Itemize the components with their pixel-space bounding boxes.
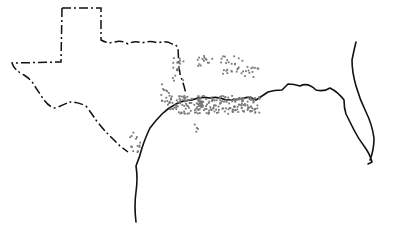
occurrence-dot xyxy=(184,101,186,103)
occurrence-dot xyxy=(248,70,250,72)
occurrence-dot xyxy=(237,68,239,70)
occurrence-dot xyxy=(206,59,208,61)
occurrence-dot xyxy=(235,109,237,111)
occurrence-dot xyxy=(211,58,213,60)
occurrence-dot xyxy=(243,98,245,100)
occurrence-dot xyxy=(179,101,181,103)
occurrence-dot xyxy=(214,111,216,113)
occurrence-dot xyxy=(196,127,198,129)
occurrence-dot xyxy=(198,109,200,111)
occurrence-dot xyxy=(208,112,210,114)
occurrence-dot xyxy=(172,108,174,110)
occurrence-dot xyxy=(198,57,200,59)
occurrence-dot xyxy=(256,108,258,110)
occurrence-dot xyxy=(219,100,221,102)
occurrence-dot xyxy=(254,97,256,99)
occurrence-dot xyxy=(181,96,183,98)
occurrence-dot xyxy=(203,55,205,57)
occurrence-dot xyxy=(228,61,230,63)
occurrence-dot xyxy=(131,135,133,137)
occurrence-dot xyxy=(248,96,250,98)
occurrence-dot xyxy=(252,71,254,73)
occurrence-dot xyxy=(180,113,182,115)
occurrence-dot xyxy=(239,98,241,100)
occurrence-dot xyxy=(223,69,225,71)
occurrence-dot xyxy=(137,145,139,147)
occurrence-dot xyxy=(184,113,186,115)
occurrence-dot xyxy=(135,138,137,140)
occurrence-dot xyxy=(214,100,216,102)
occurrence-dot xyxy=(206,112,208,114)
occurrence-dot xyxy=(132,150,134,152)
texas-border xyxy=(12,8,186,152)
occurrence-dot xyxy=(182,99,184,101)
occurrence-dot xyxy=(247,66,249,68)
occurrence-dot xyxy=(208,101,210,103)
occurrence-dot xyxy=(221,95,223,97)
occurrence-dot xyxy=(188,107,190,109)
occurrence-dot xyxy=(254,109,256,111)
occurrence-dot xyxy=(172,102,174,104)
occurrence-dot xyxy=(231,95,233,97)
occurrence-dot xyxy=(179,63,181,65)
occurrence-dot xyxy=(161,83,163,85)
occurrence-dot xyxy=(224,56,226,58)
occurrence-dot xyxy=(168,92,170,94)
occurrence-dot xyxy=(258,112,260,114)
occurrence-dot xyxy=(198,105,200,107)
occurrence-dot xyxy=(231,101,233,103)
occurrence-dot xyxy=(203,60,205,62)
occurrence-dot xyxy=(206,108,208,110)
occurrence-dot xyxy=(160,94,162,96)
occurrence-dot xyxy=(221,58,223,60)
occurrence-dot xyxy=(208,110,210,112)
occurrence-dot xyxy=(166,90,168,92)
occurrence-dot xyxy=(211,97,213,99)
occurrence-dot xyxy=(197,59,199,61)
occurrence-dot xyxy=(253,76,255,78)
occurrence-dot xyxy=(225,97,227,99)
occurrence-dot xyxy=(241,72,243,74)
occurrence-dot xyxy=(218,109,220,111)
occurrence-dot xyxy=(178,68,180,70)
gulf-coastline xyxy=(135,42,374,222)
occurrence-dot xyxy=(234,63,236,65)
occurrence-dot xyxy=(242,71,244,73)
occurrence-dot xyxy=(213,105,215,107)
occurrence-dot xyxy=(242,60,244,62)
occurrence-dot xyxy=(175,108,177,110)
occurrence-dot xyxy=(251,67,253,69)
occurrence-dot xyxy=(219,97,221,99)
occurrence-dot xyxy=(161,100,163,102)
occurrence-dot xyxy=(233,55,235,57)
occurrence-dot xyxy=(187,96,189,98)
occurrence-dot xyxy=(202,58,204,60)
occurrence-dot xyxy=(252,99,254,101)
occurrence-dot xyxy=(174,107,176,109)
occurrence-dot xyxy=(226,72,228,74)
occurrence-dot xyxy=(197,113,199,115)
occurrence-dot xyxy=(199,112,201,114)
occurrence-dot xyxy=(162,88,164,90)
occurrence-dot xyxy=(234,106,236,108)
occurrence-dot xyxy=(171,96,173,98)
occurrence-dot xyxy=(205,98,207,100)
occurrence-dot xyxy=(137,150,139,152)
occurrence-dot xyxy=(169,95,171,97)
occurrence-dot xyxy=(238,104,240,106)
occurrence-dot xyxy=(211,100,213,102)
occurrence-dot xyxy=(200,98,202,100)
occurrence-dot xyxy=(215,109,217,111)
occurrence-dot xyxy=(249,72,251,74)
occurrence-dot xyxy=(250,96,252,98)
occurrence-dot xyxy=(243,111,245,113)
occurrence-dot xyxy=(176,62,178,64)
occurrence-dot xyxy=(252,102,254,104)
occurrence-dot xyxy=(227,97,229,99)
occurrence-dot xyxy=(183,111,185,113)
occurrence-dot xyxy=(188,99,190,101)
occurrence-dot xyxy=(176,99,178,101)
occurrence-dot xyxy=(200,65,202,67)
occurrence-dot xyxy=(133,132,135,134)
occurrence-dot xyxy=(186,105,188,107)
